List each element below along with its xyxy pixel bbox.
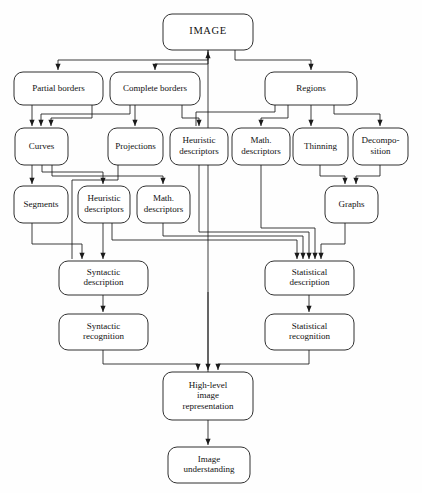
edge-highlevel-to-understand xyxy=(205,420,210,445)
node-thinning[interactable]: Thinning xyxy=(293,128,348,165)
node-math2[interactable]: Math.descriptors xyxy=(137,186,190,223)
arrowhead-down xyxy=(342,178,347,184)
edge-line xyxy=(52,165,163,184)
edge-partial-to-curves xyxy=(29,105,34,126)
arrowhead-down xyxy=(100,306,105,312)
edge-line xyxy=(261,105,288,126)
arrowhead-down xyxy=(353,178,358,184)
node-box[interactable] xyxy=(232,128,290,165)
edge-line xyxy=(235,50,311,70)
node-heur2[interactable]: Heuristicdescriptors xyxy=(78,186,130,223)
node-syndesc[interactable]: Syntacticdescription xyxy=(59,261,148,295)
arrowhead-down xyxy=(312,253,317,259)
arrowhead-down xyxy=(196,120,201,126)
arrowhead-down xyxy=(48,120,53,126)
node-statdesc[interactable]: Statisticaldescription xyxy=(265,261,354,295)
node-complete[interactable]: Complete borders xyxy=(110,72,200,105)
edge-line xyxy=(199,165,309,259)
node-box[interactable] xyxy=(168,447,250,483)
node-box[interactable] xyxy=(59,314,148,350)
edge-synrec-to-highlevel xyxy=(103,350,201,370)
edge-image-to-regions xyxy=(235,50,314,70)
node-box[interactable] xyxy=(14,186,68,223)
edge-line xyxy=(58,50,208,70)
edge-line xyxy=(41,105,130,126)
node-heur1[interactable]: Heuristicdescriptors xyxy=(170,128,228,165)
node-box[interactable] xyxy=(137,186,190,223)
edge-complete-to-projections xyxy=(132,105,137,126)
node-box[interactable] xyxy=(14,72,103,105)
edge-line xyxy=(261,165,315,259)
edge-heur1-to-statdesc xyxy=(199,165,312,259)
node-box[interactable] xyxy=(110,72,200,105)
node-statrec[interactable]: Statisticalrecognition xyxy=(265,314,354,350)
edge-graphs-to-statdesc xyxy=(318,223,345,259)
arrowhead-down xyxy=(294,253,299,259)
nodes-layer: IMAGEPartial bordersComplete bordersRegi… xyxy=(14,14,408,483)
arrowhead-down xyxy=(308,64,313,70)
arrowhead-down xyxy=(215,364,220,370)
arrowhead-down xyxy=(29,178,34,184)
edge-curves-to-segments xyxy=(29,165,34,184)
arrowhead-down xyxy=(306,306,311,312)
node-understand[interactable]: Imageunderstanding xyxy=(168,447,250,483)
edge-thinning-to-graphs xyxy=(320,165,348,184)
arrowhead-down xyxy=(205,439,210,445)
edge-line xyxy=(32,223,82,259)
edge-line xyxy=(356,165,380,184)
node-graphs[interactable]: Graphs xyxy=(325,186,378,223)
node-box[interactable] xyxy=(78,186,130,223)
arrowhead-down xyxy=(306,253,311,259)
edge-curves-to-heur2 xyxy=(42,165,106,184)
edge-line xyxy=(103,350,198,370)
node-box[interactable] xyxy=(163,14,253,50)
edge-regions-to-math1 xyxy=(258,105,288,126)
edge-segments-to-syndesc xyxy=(32,223,85,259)
node-box[interactable] xyxy=(170,128,228,165)
node-box[interactable] xyxy=(59,261,148,295)
node-partial[interactable]: Partial borders xyxy=(14,72,103,105)
node-box[interactable] xyxy=(265,261,354,295)
edge-line xyxy=(218,350,309,370)
node-image[interactable]: IMAGE xyxy=(163,14,253,50)
arrowhead-down xyxy=(308,120,313,126)
arrowhead-down xyxy=(132,120,137,126)
node-box[interactable] xyxy=(353,128,408,165)
flowchart-diagram: IMAGEPartial bordersComplete bordersRegi… xyxy=(0,0,422,493)
edge-curves-to-math2 xyxy=(52,165,166,184)
edge-line xyxy=(334,105,380,126)
edge-image-to-partial xyxy=(55,50,208,70)
edge-line xyxy=(321,223,345,259)
arrowhead-down xyxy=(100,253,105,259)
node-box[interactable] xyxy=(163,372,253,420)
node-curves[interactable]: Curves xyxy=(15,128,68,165)
arrowhead-down xyxy=(205,364,210,370)
node-box[interactable] xyxy=(325,186,378,223)
node-box[interactable] xyxy=(15,128,68,165)
node-box[interactable] xyxy=(108,128,163,165)
edge-line xyxy=(320,165,345,184)
node-box[interactable] xyxy=(265,72,357,105)
node-decomp[interactable]: Decompo-sition xyxy=(353,128,408,165)
edge-complete-to-curves xyxy=(48,105,92,126)
node-box[interactable] xyxy=(293,128,348,165)
arrowhead-down xyxy=(258,120,263,126)
edge-line xyxy=(182,105,199,126)
edge-regions-to-thinning xyxy=(308,105,313,126)
node-math1[interactable]: Math.descriptors xyxy=(232,128,290,165)
edge-statrec-to-highlevel xyxy=(215,350,309,370)
arrowhead-down xyxy=(100,178,105,184)
arrowhead-down xyxy=(377,120,382,126)
arrowhead-down xyxy=(79,253,84,259)
flowchart-canvas: IMAGEPartial bordersComplete bordersRegi… xyxy=(0,0,422,493)
node-regions[interactable]: Regions xyxy=(265,72,357,105)
edge-statdesc-to-statrec xyxy=(306,295,311,312)
node-segments[interactable]: Segments xyxy=(14,186,68,223)
edge-regions-to-decomp xyxy=(334,105,383,126)
node-box[interactable] xyxy=(265,314,354,350)
arrowhead-down xyxy=(29,120,34,126)
node-projections[interactable]: Projections xyxy=(108,128,163,165)
arrowhead-up xyxy=(205,52,210,58)
node-synrec[interactable]: Syntacticrecognition xyxy=(59,314,148,350)
node-highlevel[interactable]: High-levelimagerepresentation xyxy=(163,372,253,420)
